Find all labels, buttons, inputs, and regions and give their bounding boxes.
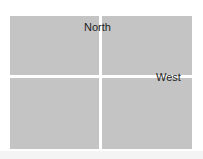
quadrant-bottom-left: [10, 78, 99, 149]
bottom-band: [0, 151, 203, 159]
quadrant-top-right: [102, 16, 192, 75]
north-label: North: [84, 22, 111, 33]
west-label: West: [156, 72, 181, 83]
quadrant-bottom-right: [102, 78, 192, 149]
